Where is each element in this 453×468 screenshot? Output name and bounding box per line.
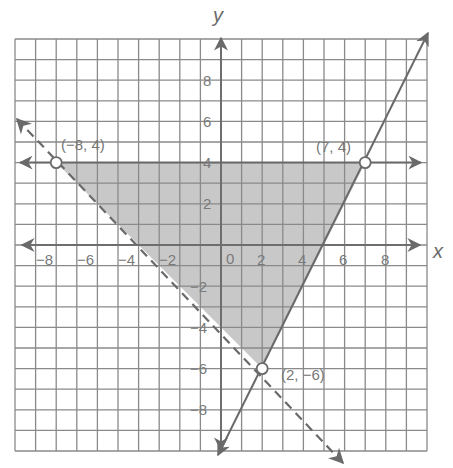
x-tick: −2: [159, 251, 176, 268]
x-tick: −8: [36, 251, 53, 268]
vertex-label-7-4: (7, 4): [316, 138, 351, 155]
y-tick: −8: [190, 401, 207, 418]
x-axis-label: x: [432, 240, 444, 262]
y-axis-label: y: [211, 4, 224, 26]
coordinate-plane: (−8, 4) (7, 4) (2, −6) x y −8 −6 −4 −2 0…: [0, 0, 453, 468]
y-tick: 6: [203, 113, 211, 130]
y-tick: 4: [203, 154, 211, 171]
x-tick: 0: [226, 250, 234, 267]
x-tick: 6: [339, 251, 347, 268]
vertex-point-2-neg6: [257, 363, 268, 374]
x-tick: 8: [381, 251, 389, 268]
x-tick: 2: [257, 251, 265, 268]
vertex-label-2-neg6: (2, −6): [281, 366, 325, 383]
y-tick: 8: [203, 72, 211, 89]
vertex-point-neg8-4: [51, 157, 62, 168]
y-tick: −6: [190, 360, 207, 377]
y-tick: −4: [190, 319, 207, 336]
y-tick: 2: [203, 195, 211, 212]
x-tick: −6: [77, 251, 94, 268]
x-tick: −4: [118, 251, 135, 268]
vertex-label-neg8-4: (−8, 4): [61, 136, 105, 153]
vertex-point-7-4: [360, 157, 371, 168]
y-tick: −2: [190, 278, 207, 295]
x-tick: 4: [298, 251, 306, 268]
